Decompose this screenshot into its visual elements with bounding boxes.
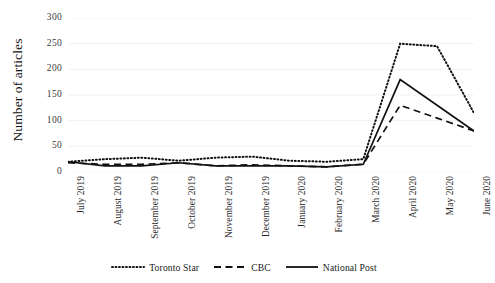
plot-area [68, 18, 474, 172]
y-tick-label: 200 [28, 65, 62, 75]
y-axis-title: Number of articles [4, 0, 30, 180]
x-axis-tick-labels: July 2019August 2019September 2019Octobe… [68, 176, 474, 246]
x-tick-label: August 2019 [110, 176, 126, 246]
y-axis-title-text: Number of articles [9, 38, 25, 141]
series-line-national-post [68, 80, 474, 167]
legend-label: Toronto Star [149, 262, 199, 273]
plot-svg [68, 18, 474, 172]
x-tick-label: May 2020 [442, 176, 458, 246]
legend-label: CBC [251, 262, 271, 273]
y-tick-label: 100 [28, 116, 62, 126]
y-tick-label: 250 [28, 39, 62, 49]
x-tick-label: July 2019 [73, 176, 89, 246]
legend-item-national-post[interactable]: National Post [285, 262, 377, 273]
y-tick-label: 150 [28, 90, 62, 100]
y-axis-tick-labels: 300250200150100500 [28, 18, 62, 172]
x-tick-label: April 2020 [405, 176, 421, 246]
y-tick-label: 0 [28, 167, 62, 177]
x-tick-label: September 2019 [147, 176, 163, 246]
x-tick-label: January 2020 [294, 176, 310, 246]
legend-item-toronto-star[interactable]: Toronto Star [111, 262, 199, 273]
y-tick-label: 300 [28, 13, 62, 23]
data-series-group [68, 44, 474, 167]
legend-key-icon [285, 262, 319, 272]
x-tick-label: December 2019 [258, 176, 274, 246]
x-tick-label: October 2019 [184, 176, 200, 246]
x-tick-label: March 2020 [368, 176, 384, 246]
x-tick-label: February 2020 [331, 176, 347, 246]
gridlines [68, 18, 474, 172]
legend-label: National Post [323, 262, 377, 273]
chart-legend: Toronto StarCBCNational Post [0, 258, 488, 276]
y-tick-label: 50 [28, 142, 62, 152]
x-tick-label: November 2019 [221, 176, 237, 246]
x-tick-label: June 2020 [479, 176, 495, 246]
legend-key-icon [111, 262, 145, 272]
series-line-toronto-star [68, 44, 474, 162]
legend-key-icon [213, 262, 247, 272]
legend-item-cbc[interactable]: CBC [213, 262, 271, 273]
